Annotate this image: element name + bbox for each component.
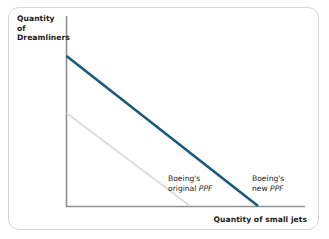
original-ppf-label-abbr: PPF (199, 184, 213, 193)
ppf-figure: Quantity of Dreamliners Quantity of smal… (0, 0, 329, 239)
original-ppf-label-prefix: original (168, 184, 199, 193)
new-ppf-label-abbr: PPF (270, 184, 284, 193)
new-ppf-label-prefix: new (252, 184, 270, 193)
x-axis-title: Quantity of small jets (205, 215, 307, 225)
new-ppf-label-line1: Boeing's (252, 174, 284, 184)
new-ppf-label-line2: new PPF (252, 184, 284, 194)
original-ppf-label-line2: original PPF (168, 184, 212, 194)
original-ppf-label: Boeing's original PPF (168, 174, 212, 194)
new-ppf-label: Boeing's new PPF (252, 174, 284, 194)
y-axis-title: Quantity of Dreamliners (17, 14, 65, 43)
original-ppf-label-line1: Boeing's (168, 174, 212, 184)
new-ppf-line (67, 56, 259, 206)
